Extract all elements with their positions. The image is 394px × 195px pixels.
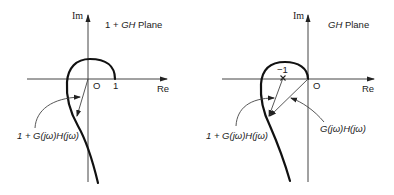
right-panel-gh-plane: Im GH Plane −1 O Re 1 + G(jω)H(jω) G(jω)… (206, 10, 374, 182)
right-vector-label-1-plus-gh: 1 + G(jω)H(jω) (206, 130, 268, 141)
left-origin-label: O (93, 80, 100, 91)
left-nyquist-curve (67, 59, 115, 183)
right-re-label: Re (362, 83, 374, 94)
right-origin-label: O (313, 80, 320, 91)
right-plane-title: GH Plane (328, 19, 369, 30)
left-vector-label: 1 + G(jω)H(jω) (17, 130, 79, 141)
left-plane-title: 1 + GH Plane (105, 19, 162, 30)
left-one-label: 1 (113, 80, 118, 91)
right-im-label: Im (293, 10, 304, 21)
nyquist-diagram: Im 1 + GH Plane O 1 Re 1 + G(jω)H(jω) Im… (0, 0, 394, 195)
left-im-label: Im (72, 10, 83, 21)
left-panel-1-plus-gh-plane: Im 1 + GH Plane O 1 Re 1 + G(jω)H(jω) (17, 10, 169, 183)
left-leader-arrow (35, 97, 80, 128)
minus-one-label: −1 (277, 64, 288, 75)
left-re-label: Re (157, 83, 169, 94)
right-vector-label-gh: G(jω)H(jω) (320, 123, 366, 134)
